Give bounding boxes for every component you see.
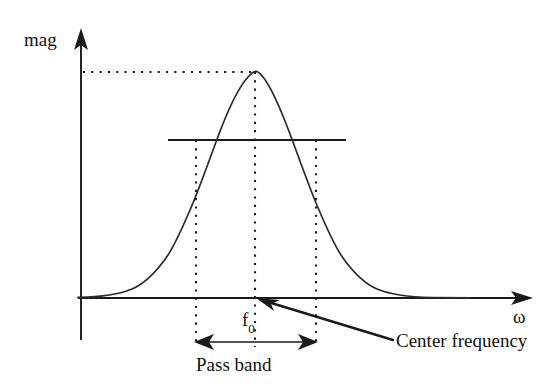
center-frequency-tick-label: f0 — [242, 310, 255, 333]
pass-band-label: Pass band — [196, 355, 271, 374]
y-axis-label: mag — [24, 30, 57, 49]
center-frequency-leader-line — [268, 302, 393, 340]
figure-canvas — [0, 0, 555, 386]
f0-subscript-text: 0 — [248, 321, 255, 336]
magnitude-response-curve — [78, 71, 470, 297]
x-axis-label: ω — [513, 307, 526, 326]
bandpass-response-figure: mag ω f0 Pass band Center frequency — [0, 0, 555, 386]
center-frequency-label: Center frequency — [396, 331, 527, 350]
